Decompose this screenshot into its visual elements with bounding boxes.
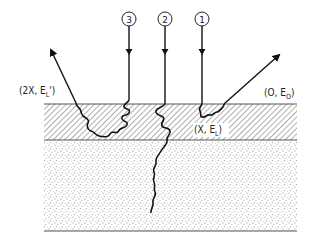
- arrow-down-icon: [162, 49, 169, 55]
- surface-layer: [44, 104, 297, 140]
- beam-3-label: 3: [126, 15, 132, 25]
- scattering-diagram: 3 2 1 (2X, EL') (X, EL) (O, E: [0, 0, 314, 248]
- arrow-down-icon: [126, 49, 133, 55]
- label-double-pass-exit: (2X, EL'): [19, 85, 55, 99]
- label-surface-exit: (O, EO): [264, 87, 294, 101]
- beam-1-label: 1: [199, 15, 205, 25]
- arrow-down-icon: [199, 49, 206, 55]
- substrate-region: [44, 140, 297, 231]
- beam-2-label: 2: [162, 15, 168, 25]
- label-layer-boundary: (X, EL): [193, 123, 229, 138]
- beam-1: 1: [195, 12, 279, 117]
